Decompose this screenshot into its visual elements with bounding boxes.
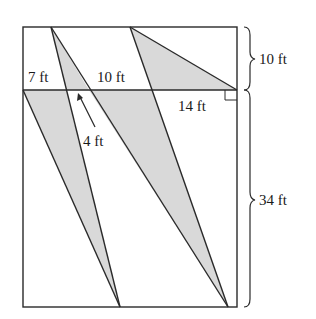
right-angle-marker <box>225 90 237 100</box>
label-upper-height: 10 ft <box>259 51 288 67</box>
label-7ft: 7 ft <box>28 69 49 85</box>
label-10ft-top: 10 ft <box>97 69 126 85</box>
arrow-line <box>80 97 95 127</box>
diagram-canvas: 7 ft 10 ft 4 ft 14 ft 10 ft 34 ft <box>0 0 316 319</box>
label-14ft: 14 ft <box>178 98 207 114</box>
label-lower-height: 34 ft <box>259 192 288 208</box>
arrow-head-icon <box>77 93 83 101</box>
upper-brace <box>244 27 255 90</box>
geometry-diagram: 7 ft 10 ft 4 ft 14 ft 10 ft 34 ft <box>0 0 316 319</box>
label-4ft: 4 ft <box>83 133 104 149</box>
lower-brace <box>244 90 255 307</box>
